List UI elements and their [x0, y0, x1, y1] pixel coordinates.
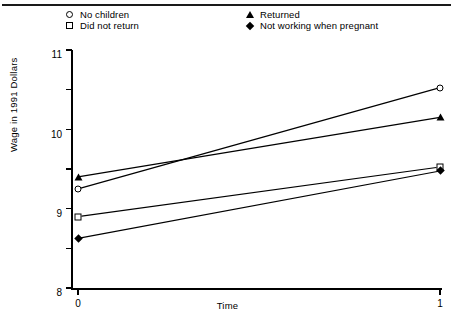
legend-label: Returned [260, 9, 300, 20]
circle-marker-icon [75, 185, 82, 192]
triangle-marker-icon [436, 114, 444, 121]
data-point-triangle [435, 112, 446, 123]
y-tick-label: 11 [52, 50, 62, 60]
header-rule [2, 4, 451, 6]
figure-canvas: No children Did not return Returned Not … [0, 0, 455, 322]
data-point-diamond [73, 233, 84, 244]
legend-label: No children [80, 9, 129, 20]
series-line [78, 117, 440, 177]
legend-label: Not working when pregnant [260, 20, 378, 31]
data-point-circle [435, 82, 446, 93]
chart-legend: No children Did not return Returned Not … [0, 9, 455, 35]
square-marker-icon [75, 213, 82, 220]
circle-marker-icon [437, 84, 444, 91]
legend-item-returned: Returned [244, 9, 300, 20]
circle-marker-icon [64, 9, 75, 20]
data-point-circle [73, 183, 84, 194]
legend-item-did-not-return: Did not return [64, 20, 139, 31]
square-marker-icon [64, 20, 75, 31]
x-axis-title: Time [0, 300, 455, 311]
series-line [78, 171, 440, 238]
diamond-marker-icon [244, 20, 255, 31]
legend-label: Did not return [80, 20, 139, 31]
series-line [78, 88, 440, 189]
data-point-square [73, 211, 84, 222]
triangle-marker-icon [244, 9, 255, 20]
plot-area: 567891011 01 [71, 44, 443, 290]
data-point-triangle [73, 171, 84, 182]
series-lines [71, 44, 443, 290]
y-tick-label: 8 [56, 288, 62, 298]
y-tick-label: 10 [51, 130, 62, 140]
series-line [78, 167, 440, 217]
diamond-marker-icon [436, 167, 444, 175]
data-point-diamond [435, 165, 446, 176]
y-tick-label: 9 [56, 209, 62, 219]
triangle-marker-icon [74, 173, 82, 180]
legend-item-no-children: No children [64, 9, 129, 20]
diamond-marker-icon [74, 234, 82, 242]
y-axis-title: Wage in 1991 Dollars [8, 58, 19, 152]
legend-item-not-working-when-pregnant: Not working when pregnant [244, 20, 378, 31]
